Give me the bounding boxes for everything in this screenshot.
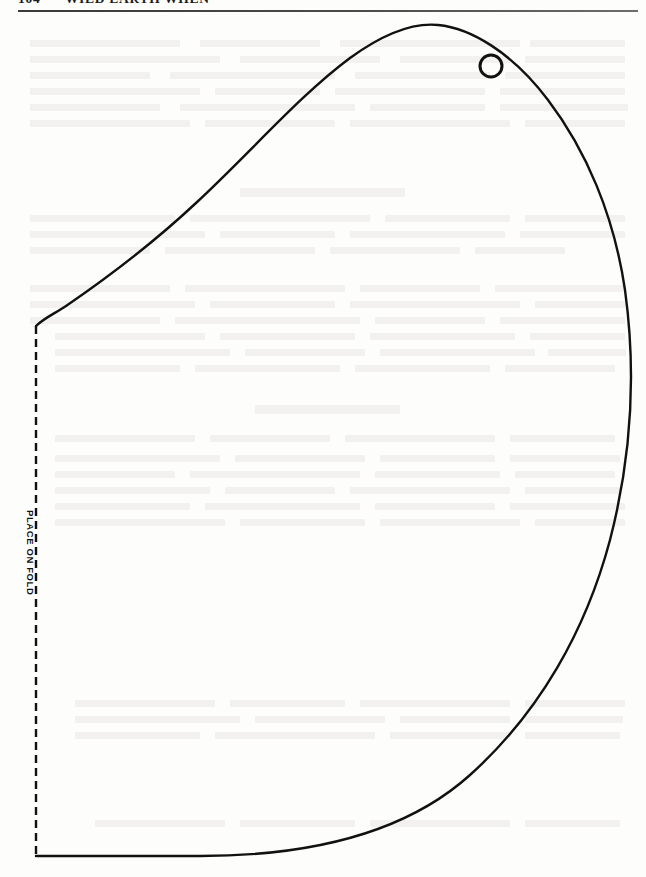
punch-hole-icon (480, 55, 502, 77)
pattern-outline-path (36, 25, 631, 856)
pattern-template-drawing (0, 0, 646, 877)
scanned-book-page: 104•WILD EARTH WHEN PLACE ON FOLD (0, 0, 646, 877)
place-on-fold-label: PLACE ON FOLD (25, 510, 36, 595)
